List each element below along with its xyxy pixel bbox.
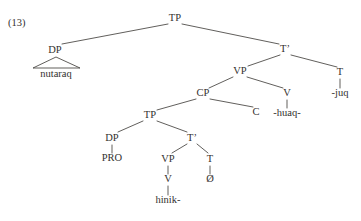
phrase-triangle-dp-subject-triangle: [33, 57, 80, 68]
tree-node-tp-embed: TP: [144, 109, 156, 120]
tree-branch-tbar-embed-to-vp: [172, 144, 187, 153]
node-label-group: TPDPnutaraqT’VPT-juqCPV-huaq-TPCDPPROT’V…: [40, 12, 349, 205]
tree-node-dp-pro: DP: [105, 132, 119, 143]
tree-branch-tp-embed-to-dp: [118, 121, 143, 132]
tree-branch-cp-to-tp: [157, 99, 196, 110]
tree-branch-tp-embed-to-tbar: [157, 121, 187, 132]
tree-node-tbar-main: T’: [280, 43, 290, 54]
tree-branch-tbar-to-vp: [248, 55, 280, 66]
tree-node-dp-subject: DP: [48, 44, 62, 55]
example-number: (13): [8, 17, 26, 29]
tree-node-tbar-embed: T’: [187, 132, 197, 143]
tree-node-nutaraq: nutaraq: [40, 68, 72, 79]
tree-branch-vp-to-v: [247, 77, 283, 88]
tree-node-pro: PRO: [102, 152, 123, 163]
tree-node-v-embed: V: [164, 173, 172, 184]
tree-node-t-embed: T: [207, 153, 214, 164]
tree-node-vp-embed: VP: [161, 153, 175, 164]
tree-branch-tbar-to-t: [291, 55, 337, 67]
tree-node-v-main: V: [283, 87, 291, 98]
tree-node-huaq: -huaq-: [273, 107, 301, 118]
tree-node-null-morph: Ø: [206, 173, 214, 184]
tree-node-cp: CP: [197, 87, 210, 98]
syntax-tree-diagram: TPDPnutaraqT’VPT-juqCPV-huaq-TPCDPPROT’V…: [0, 0, 361, 221]
tree-node-tp-root: TP: [169, 12, 181, 23]
tree-node-vp-main: VP: [233, 65, 247, 76]
tree-node-hinik: hinik-: [155, 194, 181, 205]
tree-branch-cp-to-c: [210, 99, 253, 107]
tree-node-c: C: [252, 106, 259, 117]
stem-line-group: [112, 79, 340, 195]
tree-node-t-main: T: [337, 66, 344, 77]
tree-branch-vp-to-cp: [209, 77, 233, 88]
tree-branch-tp-root-to-tbar: [182, 24, 279, 44]
syntax-tree-figure: TPDPnutaraqT’VPT-juqCPV-huaq-TPCDPPROT’V…: [0, 0, 361, 221]
tree-node-juq: -juq: [332, 87, 350, 98]
triangle-group: [33, 57, 80, 68]
tree-branch-tp-root-to-dp: [62, 24, 168, 44]
tree-branch-tbar-embed-to-t: [197, 144, 208, 153]
